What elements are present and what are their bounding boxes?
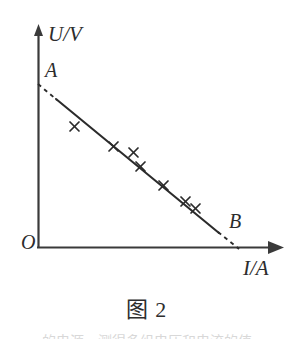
x-axis-label: I/A (243, 258, 269, 279)
data-point-markers (70, 122, 200, 213)
point-label-b: B (229, 211, 241, 231)
y-axis (34, 24, 43, 248)
data-point-marker (109, 142, 118, 151)
origin-label: O (21, 232, 35, 252)
fit-line-solid (56, 99, 219, 233)
point-label-a: A (45, 60, 57, 80)
data-point-marker (191, 204, 200, 213)
figure-container: U/V I/A A B O 图 2 的电源，测得多组电压和电流的值 (0, 0, 293, 339)
fit-line-dash-upper (38, 84, 57, 100)
page-bleed-text: 的电源，测得多组电压和电流的值 (0, 330, 293, 339)
data-point-marker (129, 148, 138, 157)
data-point-marker (70, 122, 79, 131)
figure-caption: 图 2 (0, 291, 293, 323)
y-axis-label: U/V (48, 24, 82, 45)
graph-canvas (0, 0, 293, 339)
x-axis (37, 241, 284, 254)
